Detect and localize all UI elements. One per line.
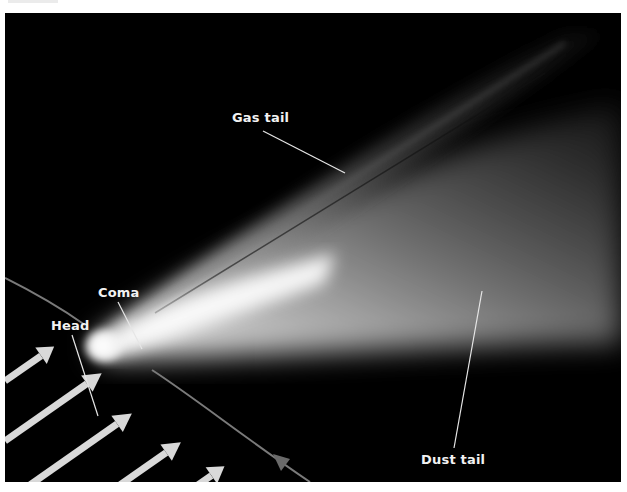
dust-tail-label: Dust tail [421,452,485,467]
arrow-icon [5,338,60,389]
arrow-icon [111,434,186,482]
comet-illustration [5,13,621,482]
head-label: Head [51,318,90,333]
arrow-icon [189,458,230,482]
coma-label: Coma [98,285,140,300]
orbit-direction-arrow-icon [273,454,290,471]
gas-tail-leader [263,131,345,173]
gas-tail-label: Gas tail [232,110,289,125]
comet-diagram [5,13,621,482]
cropped-caption-fragment [8,0,58,3]
arrow-icon [5,365,107,449]
